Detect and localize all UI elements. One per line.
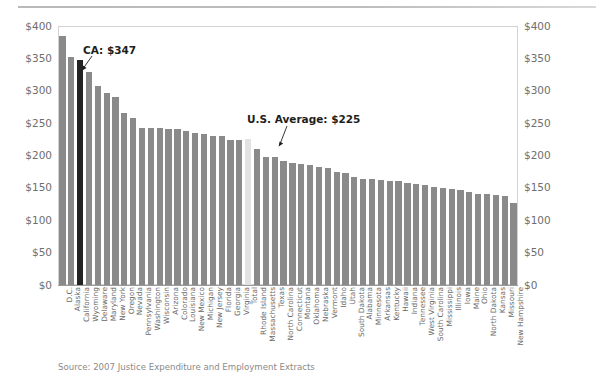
us-average-annotation-label: U.S. Average: $225 [247, 113, 360, 125]
x-axis-line [58, 285, 518, 286]
bar [387, 181, 393, 285]
x-axis-label: Arkansas [384, 287, 392, 321]
x-axis-label: South Carolina [437, 287, 445, 341]
bar [112, 97, 118, 285]
ca-annotation-arrow [80, 55, 94, 71]
bar [201, 134, 207, 286]
bar [263, 157, 269, 285]
bar [95, 86, 101, 285]
y-tick-left-200: $200 [25, 150, 52, 161]
y-tick-right-0: $0 [524, 280, 537, 291]
x-axis-label: Arizona [172, 287, 180, 315]
y-tick-right-200: $200 [524, 150, 551, 161]
y-tick-left-400: $400 [25, 21, 52, 32]
y-tick-left-50: $50 [32, 247, 52, 258]
bar [192, 133, 198, 285]
bar [165, 129, 171, 285]
bar [130, 118, 136, 285]
bar [440, 188, 446, 285]
us-average-annotation-arrow [276, 125, 290, 147]
y-tick-right-300: $300 [524, 85, 551, 96]
bar [104, 93, 110, 285]
y-tick-left-0: $0 [39, 280, 52, 291]
bar [174, 129, 180, 285]
bar [219, 136, 225, 285]
bar [280, 161, 286, 285]
x-axis-label: Washington [154, 287, 162, 330]
bar [236, 140, 242, 285]
x-axis-label: Florida [225, 287, 233, 312]
top-divider [18, 6, 596, 8]
bar [475, 194, 481, 285]
x-axis-label: New Hampshire [517, 287, 525, 345]
x-axis-label: Nebraska [322, 287, 330, 322]
x-axis-label: Utah [349, 287, 357, 305]
bar [148, 128, 154, 285]
y-tick-right-150: $150 [524, 182, 551, 193]
x-axis-label: Kansas [499, 287, 507, 313]
bar [157, 128, 163, 285]
bar [86, 72, 92, 285]
x-axis-label: Georgia [234, 287, 242, 316]
x-axis-label: Maryland [110, 287, 118, 321]
bar [466, 192, 472, 285]
bar [316, 167, 322, 285]
bar [422, 185, 428, 285]
x-axis-label: Missouri [508, 287, 516, 317]
bar [413, 184, 419, 285]
bar [431, 187, 437, 285]
y-tick-left-350: $350 [25, 53, 52, 64]
bar [449, 189, 455, 285]
y-tick-right-100: $100 [524, 215, 551, 226]
x-axis-label: Delaware [101, 287, 109, 322]
bar [307, 165, 313, 285]
bar [395, 181, 401, 285]
x-axis-label: Wisconsin [163, 287, 171, 324]
bar [360, 179, 366, 285]
bar [77, 60, 83, 285]
bar [510, 203, 516, 285]
bar [493, 195, 499, 285]
bar [254, 149, 260, 285]
y-tick-left-250: $250 [25, 118, 52, 129]
bar [139, 128, 145, 285]
bar [342, 173, 348, 285]
bar [121, 113, 127, 285]
bar [334, 172, 340, 285]
bar [502, 196, 508, 285]
bar-series [58, 26, 518, 285]
bar [210, 136, 216, 285]
y-tick-right-250: $250 [524, 118, 551, 129]
x-axis-label: Wyoming [92, 287, 100, 322]
bar [272, 157, 278, 285]
bar [378, 180, 384, 285]
bar [245, 139, 251, 285]
bar [325, 168, 331, 285]
y-tick-left-100: $100 [25, 215, 52, 226]
x-axis-label: Kentucky [393, 287, 401, 321]
x-axis-label: New York [119, 287, 127, 321]
x-axis-label: Illinois [455, 287, 463, 310]
y-tick-right-50: $50 [524, 247, 544, 258]
bar [404, 183, 410, 285]
bar [457, 190, 463, 285]
bar [227, 140, 233, 285]
y-tick-left-300: $300 [25, 85, 52, 96]
bar [351, 177, 357, 285]
y-tick-right-400: $400 [524, 21, 551, 32]
bar [183, 131, 189, 285]
bar [369, 179, 375, 285]
bar [68, 57, 74, 285]
x-axis-label: Mississippi [446, 287, 454, 326]
x-axis-label: Massachusetts [269, 287, 277, 342]
x-axis-label: New Jersey [216, 287, 224, 328]
x-axis-label: Michigan [207, 287, 215, 320]
x-axis-label: Hawaii [402, 287, 410, 312]
x-axis-labels: D.C.AlaskaCaliforniaWyomingDelawareMaryl… [58, 287, 518, 353]
chart-page: $0$50$100$150$200$250$300$350$400 $0$50$… [0, 0, 614, 390]
source-note: Source: 2007 Justice Expenditure and Emp… [58, 362, 315, 372]
bar [298, 164, 304, 285]
x-axis-label: Texas [278, 287, 286, 307]
x-axis-label: North Carolina [287, 287, 295, 340]
bar [59, 36, 65, 285]
